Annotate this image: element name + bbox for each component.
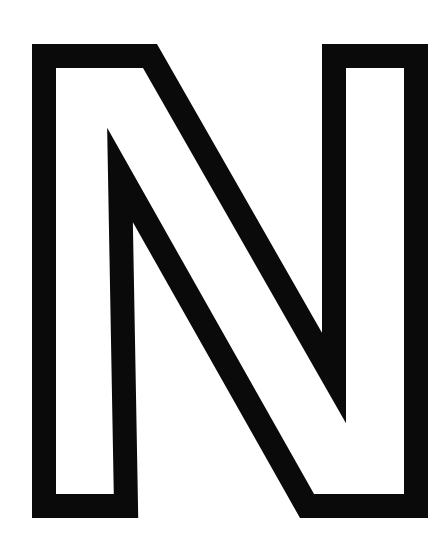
letter-n-outline-icon — [0, 0, 447, 560]
